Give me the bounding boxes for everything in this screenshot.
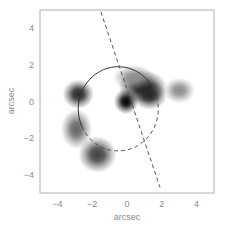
y-tick-label: −2 <box>24 133 34 143</box>
x-tick-label: 2 <box>159 199 164 209</box>
y-tick-label: 2 <box>29 60 34 70</box>
x-axis-label: arcsec <box>114 212 141 222</box>
x-tick-label: 0 <box>124 199 129 209</box>
y-tick-label: 4 <box>29 23 34 33</box>
x-tick-label: 4 <box>194 199 199 209</box>
lens-model-chart: −4−2024 −4−2024 arcsec arcsec <box>0 0 227 229</box>
y-tick-label: 0 <box>29 97 34 107</box>
x-tick-label: −2 <box>87 199 97 209</box>
y-tick-label: −4 <box>24 170 34 180</box>
blob-sw-arc-lower <box>78 136 116 173</box>
x-axis-ticks: −4−2024 <box>52 199 199 209</box>
blob-east-knot <box>164 78 195 104</box>
blob-arc-ne-extended <box>113 65 155 91</box>
y-axis-ticks: −4−2024 <box>24 23 34 179</box>
x-tick-label: −4 <box>52 199 62 209</box>
y-axis-label: arcsec <box>6 87 16 114</box>
